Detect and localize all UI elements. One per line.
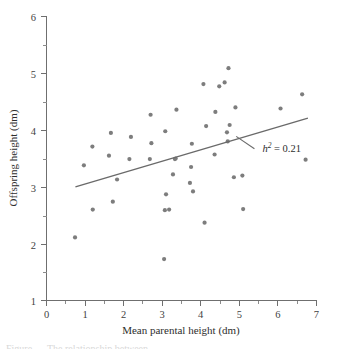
- y-axis-title: Offspring height (dm): [7, 109, 20, 206]
- data-point: [91, 208, 95, 212]
- x-tick-label: 3: [160, 309, 165, 320]
- data-point: [149, 141, 153, 145]
- data-point: [191, 189, 195, 193]
- x-axis-tick-labels: 0 1 2 3 4 5 6 7: [44, 309, 319, 320]
- data-point: [217, 84, 221, 88]
- x-tick-label: 5: [237, 309, 242, 320]
- data-point: [300, 92, 304, 96]
- data-point: [107, 154, 111, 158]
- y-tick-label: 4: [31, 126, 37, 137]
- data-point: [232, 175, 236, 179]
- data-point: [188, 181, 192, 185]
- x-tick-label: 0: [44, 309, 49, 320]
- data-point: [148, 157, 152, 161]
- axes-group: [47, 16, 317, 301]
- data-point: [278, 106, 282, 110]
- data-point: [201, 82, 205, 86]
- data-point: [90, 144, 94, 148]
- data-points-layer: [73, 66, 308, 261]
- x-tick-label: 1: [82, 309, 87, 320]
- data-point: [111, 200, 115, 204]
- plot-canvas: 6 5 4 3 2 1 0 1 2 3 4 5 6 7 Mean parenta…: [0, 0, 339, 349]
- y-tick-label: 1: [31, 296, 36, 307]
- data-point: [202, 221, 206, 225]
- scatter-plot-figure: 6 5 4 3 2 1 0 1 2 3 4 5 6 7 Mean parenta…: [0, 0, 339, 349]
- data-point: [189, 165, 193, 169]
- heritability-annotation: h2 = 0.21: [262, 141, 301, 154]
- y-tick-label: 6: [31, 12, 36, 23]
- data-point: [228, 123, 232, 127]
- data-point: [225, 130, 229, 134]
- data-point: [167, 208, 171, 212]
- data-point: [115, 177, 119, 181]
- data-point: [109, 131, 113, 135]
- data-point: [163, 208, 167, 212]
- data-point: [233, 105, 237, 109]
- y-tick-label: 3: [31, 183, 36, 194]
- data-point: [129, 135, 133, 139]
- data-point: [213, 152, 217, 156]
- data-point: [149, 113, 153, 117]
- data-point: [174, 108, 178, 112]
- data-point: [162, 257, 166, 261]
- data-point: [127, 157, 131, 161]
- y-tick-label: 5: [31, 69, 36, 80]
- data-point: [204, 124, 208, 128]
- x-tick-label: 4: [198, 309, 204, 320]
- y-axis-tick-labels: 6 5 4 3 2 1: [31, 12, 37, 307]
- data-point: [240, 173, 244, 177]
- x-tick-label: 2: [121, 309, 126, 320]
- x-axis-title: Mean parental height (dm): [122, 324, 240, 337]
- data-point: [164, 192, 168, 196]
- data-point: [190, 142, 194, 146]
- data-point: [171, 172, 175, 176]
- data-point: [213, 110, 217, 114]
- data-point: [73, 235, 77, 239]
- annotation-leader-line: [236, 136, 254, 148]
- data-point: [163, 129, 167, 133]
- x-tick-label: 7: [314, 309, 319, 320]
- figure-caption-partial: Figure .... The relationship between ...: [6, 342, 316, 349]
- data-point: [304, 158, 308, 162]
- x-tick-label: 6: [275, 309, 280, 320]
- y-tick-label: 2: [31, 240, 36, 251]
- data-point: [82, 163, 86, 167]
- data-point: [226, 66, 230, 70]
- data-point: [241, 207, 245, 211]
- data-point: [223, 80, 227, 84]
